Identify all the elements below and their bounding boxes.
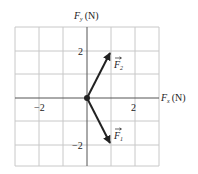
y-tick-2: 2: [78, 46, 83, 57]
vector-f2-label: F2: [113, 57, 123, 71]
vector-f1-label: F1: [113, 128, 123, 142]
x-axis-label: Fx(N): [160, 92, 186, 104]
svg-text:F2: F2: [113, 59, 123, 71]
svg-text:F1: F1: [113, 130, 123, 142]
y-tick-neg2: −2: [72, 140, 83, 151]
x-tick-2: 2: [131, 102, 136, 113]
origin-point: [84, 95, 90, 101]
force-diagram: Fy(N) Fx(N) −2 2 2 −2 F2 F1: [0, 0, 198, 174]
y-axis-label: Fy(N): [73, 10, 99, 22]
x-tick-neg2: −2: [34, 102, 45, 113]
vector-f2-arrow: [87, 53, 110, 98]
